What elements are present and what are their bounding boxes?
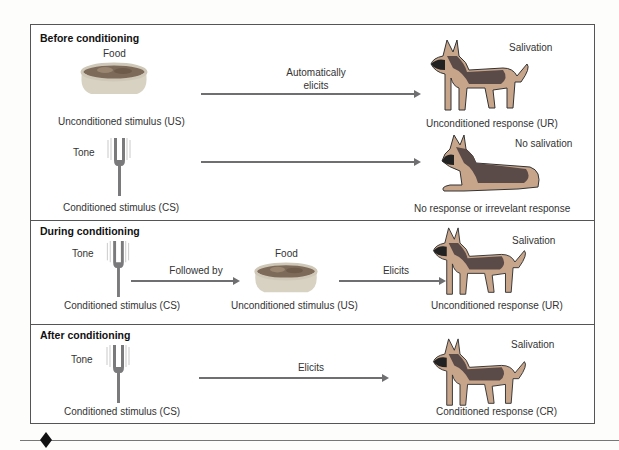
stimulus-caption: Tone: [71, 354, 93, 365]
food-bowl-icon: [75, 62, 153, 98]
section-title: After conditioning: [40, 329, 130, 341]
tuning-fork-icon: [105, 345, 131, 405]
response-label: Unconditioned response (UR): [426, 118, 558, 129]
stimulus-caption: Food: [103, 48, 126, 59]
stimulus-caption: Tone: [73, 147, 95, 158]
section-during-conditioning: During conditioning Tone Conditioned sti…: [31, 221, 594, 324]
no-response-arrow: [201, 161, 415, 163]
section-after-conditioning: After conditioning Tone Conditioned stim…: [31, 325, 594, 423]
food-bowl-icon: [247, 262, 325, 296]
elicits-arrow: [199, 377, 383, 379]
section-title: During conditioning: [40, 225, 140, 237]
arrow-label: Followed by: [156, 265, 236, 276]
response-caption: No salivation: [515, 138, 572, 149]
stimulus-label: Unconditioned stimulus (US): [58, 116, 185, 127]
section-title: Before conditioning: [40, 32, 139, 44]
response-caption: Salivation: [509, 42, 552, 53]
response-caption: Salivation: [511, 339, 554, 350]
arrow-label: Elicits: [281, 362, 341, 373]
tuning-fork-icon: [106, 138, 132, 198]
response-label: No response or irrevelant response: [414, 203, 570, 214]
stimulus-label: Conditioned stimulus (CS): [64, 406, 180, 417]
arrow-label: Automatically: [271, 67, 361, 78]
middle-caption: Food: [275, 248, 298, 259]
tuning-fork-icon: [105, 241, 131, 299]
stimulus-caption: Tone: [72, 248, 94, 259]
arrow-label: elicits: [271, 80, 361, 91]
stimulus-label: Conditioned stimulus (CS): [63, 202, 179, 213]
response-label: Conditioned response (CR): [436, 406, 557, 417]
middle-label: Unconditioned stimulus (US): [231, 300, 358, 311]
footer-rule: [20, 440, 619, 441]
followed-by-arrow: [131, 280, 234, 282]
elicits-arrow: [201, 93, 415, 95]
stimulus-label: Conditioned stimulus (CS): [64, 300, 180, 311]
response-label: Unconditioned response (UR): [431, 300, 563, 311]
arrow-label: Elicits: [371, 265, 421, 276]
response-caption: Salivation: [512, 235, 555, 246]
diagram-frame: Before conditioning Food Unconditioned s…: [30, 24, 595, 424]
section-before-conditioning: Before conditioning Food Unconditioned s…: [31, 25, 594, 221]
diamond-marker-icon: [40, 432, 52, 448]
